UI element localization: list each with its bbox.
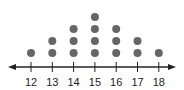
data-dot [112, 25, 120, 33]
data-dot [155, 49, 163, 57]
data-dot [48, 37, 56, 45]
data-dot [70, 25, 78, 33]
data-dot [91, 25, 99, 33]
data-dot [91, 37, 99, 45]
data-dot [134, 37, 142, 45]
tick-label: 18 [149, 76, 169, 88]
tick-label: 16 [106, 76, 126, 88]
data-dot [70, 37, 78, 45]
tick-label: 12 [21, 76, 41, 88]
data-dot [48, 49, 56, 57]
tick-label: 15 [85, 76, 105, 88]
data-dot [70, 49, 78, 57]
data-dot [134, 49, 142, 57]
left-arrow-icon [8, 64, 16, 70]
data-dot [112, 37, 120, 45]
data-dot [91, 49, 99, 57]
data-dot [27, 49, 35, 57]
data-dot [91, 13, 99, 21]
tick-label: 17 [128, 76, 148, 88]
tick-label: 13 [42, 76, 62, 88]
data-dot [112, 49, 120, 57]
tick-label: 14 [64, 76, 84, 88]
number-line-axis [8, 62, 176, 72]
right-arrow-icon [168, 64, 176, 70]
data-dots [27, 13, 163, 57]
